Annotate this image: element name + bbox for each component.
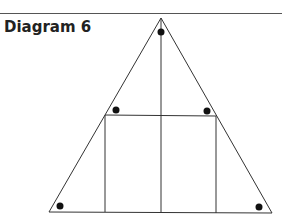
angle-dot-bottom-right (256, 204, 263, 211)
angle-dot-rect-top-right (204, 108, 211, 115)
angle-dot-rect-top-left (113, 107, 120, 114)
angle-dot-bottom-left (57, 203, 64, 210)
diagram-canvas (0, 0, 282, 217)
rectangle-top (105, 115, 216, 116)
angle-dot-apex (158, 29, 165, 36)
